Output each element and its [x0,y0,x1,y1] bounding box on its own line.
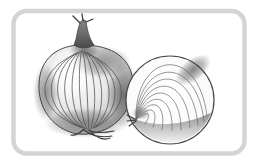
illustration-card [0,0,256,166]
bottom-shading [44,108,128,138]
onion-illustration [0,0,256,166]
